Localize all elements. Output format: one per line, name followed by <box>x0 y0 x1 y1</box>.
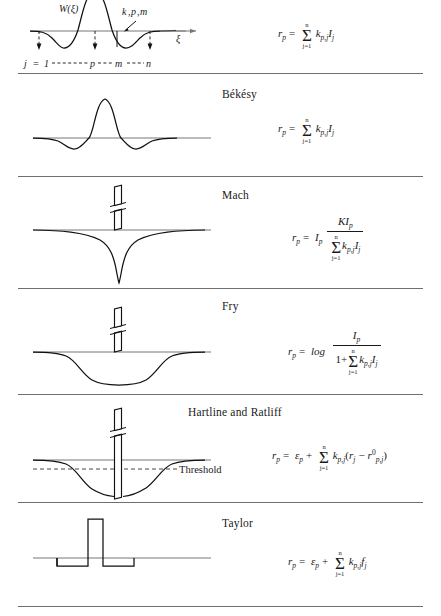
panel-title-hartline-ratliff: Hartline and Ratliff <box>188 406 282 418</box>
panel-title-fry: Fry <box>222 300 239 312</box>
panel-title-taylor: Taylor <box>222 517 253 529</box>
panel-divider-1 <box>18 73 423 74</box>
graph-mach <box>0 182 441 287</box>
formula-bekesy-schematic: rp= nΣj=1 kp,jIj <box>278 21 334 49</box>
svg-text:m: m <box>140 6 147 17</box>
panel-title-mach: Mach <box>222 189 249 201</box>
formula-fry: rp= log Ip 1+nΣj=1kp,jIj <box>288 330 383 375</box>
formula-taylor: rp= εp+ nΣj=1 kp,jfj <box>288 549 366 577</box>
threshold-label: Threshold <box>179 464 222 475</box>
svg-text:m: m <box>115 58 122 69</box>
svg-text:=: = <box>33 58 39 69</box>
panel-divider-4 <box>18 394 423 395</box>
svg-text:n: n <box>146 58 151 69</box>
panel-divider-5 <box>18 502 423 503</box>
svg-text:ξ: ξ <box>176 33 181 45</box>
formula-bekesy: rp= nΣj=1 kp,jIj <box>278 116 334 144</box>
graph-bekesy <box>0 80 441 170</box>
graph-taylor <box>0 508 441 603</box>
svg-text:1: 1 <box>44 58 49 69</box>
formula-hartline-ratliff: rp= εp+ nΣj=1 kp,j(rj−r0p,j) <box>272 443 387 471</box>
panel-divider-2 <box>18 176 423 177</box>
panel-title-bekesy: Békésy <box>222 88 257 100</box>
formula-mach: rp= Ip KIp nΣj=1kp,jIj <box>292 216 365 261</box>
figure-page: ξ W(ξ) k , p , m j = 1 p <box>0 0 441 616</box>
svg-text:k: k <box>122 6 127 17</box>
panel-divider-6 <box>18 606 423 607</box>
svg-text:p: p <box>130 6 136 17</box>
svg-text:p: p <box>89 58 95 69</box>
panel-divider-3 <box>18 288 423 289</box>
svg-text:j: j <box>22 58 27 69</box>
graph-bekesy-schematic: ξ W(ξ) k , p , m j = 1 p <box>0 0 441 78</box>
svg-text:W(ξ): W(ξ) <box>59 3 79 15</box>
